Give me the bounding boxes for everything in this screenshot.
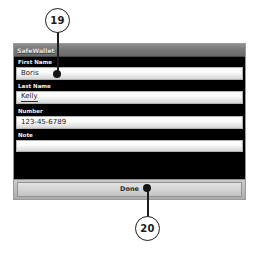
callout-target-dot-19 (53, 70, 61, 78)
number-value: 123-45-6789 (21, 119, 66, 126)
label-number: Number (16, 106, 243, 116)
callout-marker-20: 20 (135, 216, 160, 241)
callout-target-dot-20 (143, 184, 151, 192)
label-first-name: First Name (16, 57, 243, 67)
first-name-value: Boris (21, 70, 39, 77)
done-button-label: Done (120, 186, 139, 193)
field-group-number: Number 123-45-6789 (14, 106, 245, 129)
callout-marker-19: 19 (45, 8, 70, 33)
first-name-input[interactable]: Boris (16, 67, 243, 80)
callout-number-19: 19 (50, 16, 64, 26)
label-note: Note (16, 131, 243, 141)
bottom-toolbar: Done (14, 179, 245, 199)
app-title: SafeWallet (17, 47, 55, 54)
last-name-value: Kelly (21, 93, 38, 102)
callout-leader-line-20 (147, 188, 149, 218)
field-group-note: Note (14, 131, 245, 153)
note-input[interactable] (16, 140, 243, 152)
field-group-last-name: Last Name Kelly (14, 82, 245, 105)
label-last-name: Last Name (16, 82, 243, 92)
form-body: First Name Boris Last Name Kelly Number … (14, 57, 245, 199)
figure-container: 19 20 SafeWallet First Name Boris Last N… (0, 0, 257, 255)
last-name-input[interactable]: Kelly (16, 91, 243, 104)
callout-number-20: 20 (140, 224, 154, 234)
window-title-bar: SafeWallet (14, 44, 245, 57)
done-button[interactable]: Done (17, 182, 242, 197)
number-input[interactable]: 123-45-6789 (16, 116, 243, 129)
app-window: SafeWallet First Name Boris Last Name Ke… (13, 43, 246, 200)
callout-leader-line-19 (57, 32, 59, 74)
field-group-first-name: First Name Boris (14, 57, 245, 80)
